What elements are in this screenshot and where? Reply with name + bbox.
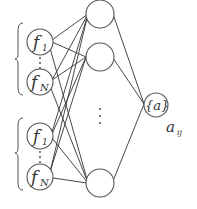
svg-text:N: N xyxy=(39,177,50,188)
svg-text:1: 1 xyxy=(42,43,48,53)
svg-text:{a}: {a} xyxy=(145,98,169,113)
input-node-f1-group1: f 1 xyxy=(27,29,53,55)
input-ellipsis-group2 xyxy=(39,151,41,163)
svg-text:ij: ij xyxy=(177,128,183,137)
hidden-node-2 xyxy=(86,43,114,71)
input-hidden-edges xyxy=(50,14,88,183)
input-node-f1-group2: f 1 xyxy=(27,123,53,149)
output-label: a ij xyxy=(166,118,183,137)
svg-text:N: N xyxy=(39,82,50,93)
hidden-output-edges xyxy=(113,14,144,181)
input-ellipsis-group1 xyxy=(39,57,41,69)
hidden-ellipsis xyxy=(99,108,101,124)
hidden-node-3 xyxy=(86,169,114,197)
hidden-node-1 xyxy=(86,0,114,28)
network-diagram: f 1 f N f 1 f N {a} a xyxy=(0,0,197,209)
svg-text:a: a xyxy=(166,118,175,136)
input-node-fN-group1: f N xyxy=(27,69,53,95)
brace-group-1 xyxy=(15,23,23,95)
svg-text:1: 1 xyxy=(42,137,48,147)
brace-group-2 xyxy=(15,118,23,190)
input-node-fN-group2: f N xyxy=(27,164,53,190)
output-node: {a} xyxy=(144,93,169,117)
